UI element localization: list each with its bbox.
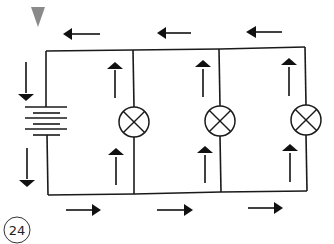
lamp-icon (291, 105, 321, 135)
arrow-right-icon (248, 202, 283, 214)
arrow-left-icon (157, 27, 191, 39)
figure-number-badge: 24 (4, 217, 30, 243)
arrow-up-icon (108, 148, 124, 185)
lamp-icon (119, 107, 149, 137)
arrow-up-icon (195, 60, 211, 97)
arrow-up-icon (281, 58, 297, 96)
arrow-down-icon (19, 148, 35, 187)
arrow-right-icon (157, 204, 193, 216)
arrow-left-icon (246, 26, 282, 38)
arrow-right-icon (66, 204, 101, 216)
lamp-icon (205, 106, 235, 136)
marker-triangle-icon (31, 7, 45, 27)
circuit-wires (46, 47, 307, 195)
arrow-left-icon (63, 28, 100, 40)
circuit-diagram: 24 (0, 0, 334, 244)
arrow-up-icon (282, 144, 298, 182)
figure-number: 24 (9, 223, 26, 238)
arrow-down-icon (18, 62, 34, 101)
arrow-up-icon (197, 146, 213, 183)
battery-icon (25, 107, 67, 135)
arrow-up-icon (107, 62, 123, 98)
